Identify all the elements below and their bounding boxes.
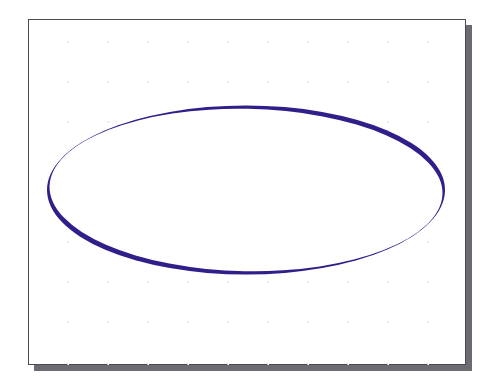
canvas-shadow-right (466, 25, 472, 371)
grid-dot (388, 282, 389, 283)
border-tick (68, 363, 70, 365)
border-tick (428, 363, 430, 365)
grid-dot (268, 282, 269, 283)
canvas-shadow-bottom (34, 365, 472, 371)
grid-dot (68, 242, 69, 243)
border-tick (348, 363, 350, 365)
grid-dot (268, 82, 269, 83)
grid-dot (108, 82, 109, 83)
grid-dot (188, 42, 189, 43)
grid-dot (148, 42, 149, 43)
grid-dot (228, 82, 229, 83)
border-tick (268, 363, 270, 365)
grid-dot (108, 322, 109, 323)
border-tick (108, 363, 110, 365)
grid-dot (68, 122, 69, 123)
grid-dot (188, 322, 189, 323)
grid-dot (188, 282, 189, 283)
grid-dot (108, 282, 109, 283)
grid-dot (148, 322, 149, 323)
grid-dot (428, 282, 429, 283)
grid-dot (348, 42, 349, 43)
grid-dot (188, 82, 189, 83)
grid-dot (428, 42, 429, 43)
grid-dot (148, 282, 149, 283)
grid-dot (308, 42, 309, 43)
border-tick (388, 363, 390, 365)
grid-dot (348, 82, 349, 83)
border-tick (188, 363, 190, 365)
grid-dot (428, 242, 429, 243)
grid-dot (148, 82, 149, 83)
grid-dot (68, 322, 69, 323)
calligraphic-ellipse[interactable] (47, 105, 445, 275)
grid-dot (268, 42, 269, 43)
grid-dot (388, 322, 389, 323)
grid-dot (108, 42, 109, 43)
grid-dot (308, 322, 309, 323)
grid-dot (388, 82, 389, 83)
grid-dot (348, 322, 349, 323)
drawing-svg (0, 0, 496, 389)
grid-dot (348, 282, 349, 283)
grid-dot (428, 82, 429, 83)
grid-dot (308, 282, 309, 283)
grid-dot (388, 122, 389, 123)
grid-dot (388, 42, 389, 43)
border-tick (228, 363, 230, 365)
border-tick (148, 363, 150, 365)
grid-dot (68, 42, 69, 43)
grid-dot (228, 322, 229, 323)
grid-dot (228, 42, 229, 43)
grid-dot (108, 122, 109, 123)
grid-dot (68, 282, 69, 283)
grid-dot (428, 322, 429, 323)
drawing-canvas (0, 0, 496, 389)
grid-dot (428, 122, 429, 123)
grid-dot (68, 82, 69, 83)
grid-dot (228, 282, 229, 283)
grid-dot (268, 322, 269, 323)
grid-dot (308, 82, 309, 83)
border-tick (308, 363, 310, 365)
